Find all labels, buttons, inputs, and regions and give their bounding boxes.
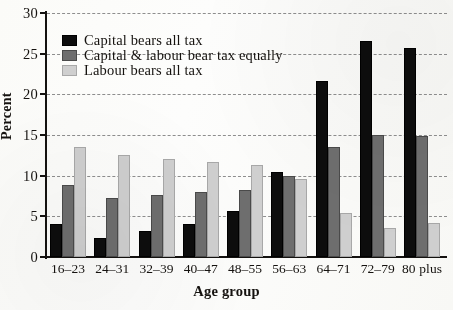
legend: Capital bears all tax Capital & labour b… — [62, 33, 283, 77]
bar — [428, 223, 440, 257]
bar-group — [360, 13, 396, 257]
legend-item-labour: Labour bears all tax — [62, 63, 283, 77]
bar — [416, 136, 428, 257]
x-tick-label: 72–79 — [358, 261, 398, 277]
bar — [328, 147, 340, 257]
y-tick-mark-5 — [40, 215, 47, 217]
bar — [163, 159, 175, 257]
x-tick-label: 48–55 — [225, 261, 265, 277]
bar — [283, 176, 295, 257]
y-tick-label-30: 30 — [23, 5, 38, 22]
bar — [372, 135, 384, 257]
bar — [50, 224, 62, 257]
x-tick-label: 64–71 — [314, 261, 354, 277]
x-axis-tick-labels: 16–2324–3132–3940–4748–5556–6364–7172–79… — [47, 261, 445, 277]
bar-group — [404, 13, 440, 257]
bar — [139, 231, 151, 257]
x-tick-label: 16–23 — [48, 261, 88, 277]
y-tick-mark-30 — [40, 12, 47, 14]
y-tick-label-20: 20 — [23, 86, 38, 103]
bar — [251, 165, 263, 257]
bar — [239, 190, 251, 258]
bar — [360, 41, 372, 257]
bar — [183, 224, 195, 257]
y-tick-label-10: 10 — [23, 167, 38, 184]
bar — [62, 185, 74, 257]
x-tick-label: 24–31 — [92, 261, 132, 277]
legend-item-capital: Capital bears all tax — [62, 33, 283, 47]
y-tick-mark-10 — [40, 175, 47, 177]
bar — [227, 211, 239, 257]
bar — [118, 155, 130, 257]
x-tick-label: 80 plus — [402, 261, 442, 277]
bar — [340, 213, 352, 257]
bar — [295, 179, 307, 257]
bar — [384, 228, 396, 257]
bar — [271, 172, 283, 257]
bar — [151, 195, 163, 257]
legend-swatch-icon-capital-labour — [62, 50, 77, 61]
y-axis-title: Percent — [0, 92, 15, 140]
bar — [207, 162, 219, 257]
x-tick-label: 32–39 — [137, 261, 177, 277]
bar — [74, 147, 86, 257]
legend-swatch-icon-capital — [62, 35, 77, 46]
bar-group — [316, 13, 352, 257]
x-axis-title: Age group — [0, 283, 453, 300]
legend-item-capital-labour: Capital & labour bear tax equally — [62, 48, 283, 62]
bar — [106, 198, 118, 257]
bar — [94, 238, 106, 257]
bar — [316, 81, 328, 257]
bar — [195, 192, 207, 257]
bar-chart: Percent 051015202530 Capital bears all t… — [0, 0, 453, 310]
x-tick-label: 56–63 — [269, 261, 309, 277]
y-tick-label-5: 5 — [31, 208, 38, 225]
y-tick-label-25: 25 — [23, 45, 38, 62]
x-tick-label: 40–47 — [181, 261, 221, 277]
y-tick-mark-20 — [40, 93, 47, 95]
y-tick-label-0: 0 — [31, 249, 38, 266]
legend-label-labour: Labour bears all tax — [84, 62, 203, 79]
bar — [404, 48, 416, 257]
legend-swatch-icon-labour — [62, 65, 77, 76]
y-tick-label-15: 15 — [23, 127, 38, 144]
y-tick-mark-15 — [40, 134, 47, 136]
y-tick-mark-0 — [40, 256, 47, 258]
y-tick-mark-25 — [40, 53, 47, 55]
